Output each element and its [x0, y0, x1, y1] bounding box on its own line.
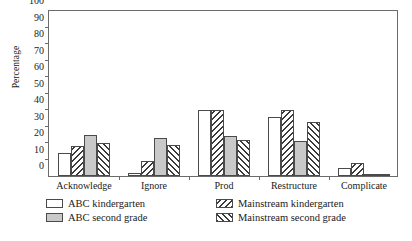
bar: [211, 110, 224, 176]
legend-item: Mainstream second grade: [216, 212, 406, 223]
bar: [97, 143, 110, 176]
bar: [198, 110, 211, 176]
legend-item: ABC second grade: [46, 212, 216, 223]
y-axis-tick-label: 20: [34, 128, 49, 138]
x-axis-tick-mark: [189, 176, 190, 180]
gray-swatch: [46, 213, 63, 222]
bar: [71, 146, 84, 176]
bar: [237, 140, 250, 176]
bar: [58, 153, 71, 176]
x-axis-tick-label: Acknowledge: [56, 180, 112, 191]
x-axis-tick-mark: [119, 176, 120, 180]
x-axis-tick-label: Complicate: [341, 180, 387, 191]
legend-label: Mainstream kindergarten: [238, 198, 344, 209]
y-axis-tick-label: 0: [39, 161, 49, 171]
x-axis-tick-label: Ignore: [141, 180, 167, 191]
y-axis-tick-label: 70: [34, 46, 49, 56]
chart-legend: ABC kindergartenMainstream kindergartenA…: [46, 196, 402, 224]
bar: [167, 145, 180, 176]
backslash-swatch: [216, 199, 233, 208]
y-axis-tick-label: 80: [34, 29, 49, 39]
bar: [294, 141, 307, 176]
legend-item: ABC kindergarten: [46, 198, 216, 209]
bar: [84, 135, 97, 176]
x-axis-tick-label: Restructure: [271, 180, 317, 191]
bar: [141, 161, 154, 176]
legend-item: Mainstream kindergarten: [216, 198, 406, 209]
bar: [338, 168, 351, 176]
y-axis-tick-label: 60: [34, 62, 49, 72]
x-axis-tick-mark: [259, 176, 260, 180]
bar-group: Acknowledge: [49, 11, 119, 176]
y-axis-tick-label: 30: [34, 112, 49, 122]
bar: [154, 138, 167, 176]
y-axis-tick-label: 100: [29, 0, 49, 6]
bar: [377, 174, 390, 176]
y-axis-tick-label: 50: [34, 79, 49, 89]
y-axis-tick-label: 90: [34, 13, 49, 23]
y-axis-title: Percentage: [11, 17, 25, 117]
legend-label: Mainstream second grade: [238, 212, 346, 223]
bar: [224, 136, 237, 176]
bar: [307, 122, 320, 176]
legend-label: ABC second grade: [68, 212, 147, 223]
plot-inner: 0102030405060708090100AcknowledgeIgnoreP…: [49, 11, 397, 176]
y-axis-tick-label: 40: [34, 95, 49, 105]
bar: [268, 117, 281, 176]
y-axis-tick-label: 10: [34, 145, 49, 155]
white-swatch: [46, 199, 63, 208]
bar: [128, 173, 141, 176]
bar-chart-figure: Percentage 0102030405060708090100Acknowl…: [0, 0, 412, 241]
x-axis-tick-mark: [329, 176, 330, 180]
bar: [364, 174, 377, 176]
bar-group: Complicate: [329, 11, 399, 176]
bar-group: Restructure: [259, 11, 329, 176]
bar-group: Prod: [189, 11, 259, 176]
bar: [281, 110, 294, 176]
bar-group: Ignore: [119, 11, 189, 176]
plot-area: 0102030405060708090100AcknowledgeIgnoreP…: [48, 10, 398, 177]
forwardslash-swatch: [216, 213, 233, 222]
x-axis-tick-label: Prod: [215, 180, 234, 191]
bar: [351, 163, 364, 176]
legend-label: ABC kindergarten: [68, 198, 145, 209]
